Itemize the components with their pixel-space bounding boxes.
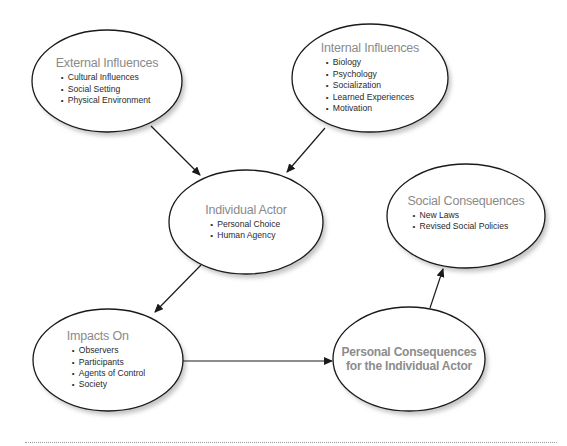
node-item-list: Cultural Influences Social Setting Physi… <box>56 72 151 106</box>
list-item: Social Setting <box>61 84 151 95</box>
list-item: Motivation <box>326 103 414 114</box>
list-item: New Laws <box>412 210 508 221</box>
arrow-external-to-individual <box>151 126 200 175</box>
node-impacts-on: Impacts On Observers Participants Agents… <box>33 309 183 411</box>
node-social-consequences: Social Consequences New Laws Revised Soc… <box>387 164 545 262</box>
flow-diagram: External Influences Cultural Influences … <box>0 0 567 446</box>
list-item: Revised Social Policies <box>412 221 508 232</box>
list-item: Agents of Control <box>72 368 145 379</box>
node-title: Social Consequences <box>407 194 524 209</box>
node-title: External Influences <box>56 56 159 71</box>
node-title-line-1: Personal Consequences <box>341 345 476 359</box>
node-internal-influences: Internal Influences Biology Psychology S… <box>292 24 448 132</box>
list-item: Participants <box>72 357 145 368</box>
node-item-list: Biology Psychology Socialization Learned… <box>321 57 414 114</box>
dotted-divider <box>25 442 557 443</box>
node-title-line-2: for the Individual Actor <box>346 359 472 373</box>
list-item: Human Agency <box>210 230 280 241</box>
list-item: Biology <box>326 57 414 68</box>
list-item: Observers <box>72 345 145 356</box>
list-item: Society <box>72 379 145 390</box>
node-item-list: Observers Participants Agents of Control… <box>67 345 145 391</box>
list-item: Psychology <box>326 69 414 80</box>
arrow-personal-to-social <box>430 269 443 308</box>
node-title: Impacts On <box>67 329 129 344</box>
arrow-internal-to-individual <box>287 128 325 172</box>
node-title: Individual Actor <box>205 203 287 218</box>
list-item: Personal Choice <box>210 219 280 230</box>
node-external-influences: External Influences Cultural Influences … <box>32 30 182 133</box>
node-personal-consequences: Personal Consequences for the Individual… <box>333 307 485 411</box>
list-item: Learned Experiences <box>326 92 414 103</box>
node-item-list: New Laws Revised Social Policies <box>407 210 508 233</box>
list-item: Socialization <box>326 80 414 91</box>
node-title: Internal Influences <box>321 41 419 56</box>
list-item: Cultural Influences <box>61 72 151 83</box>
list-item: Physical Environment <box>61 95 151 106</box>
node-individual-actor: Individual Actor Personal Choice Human A… <box>169 170 323 274</box>
node-item-list: Personal Choice Human Agency <box>205 219 280 242</box>
